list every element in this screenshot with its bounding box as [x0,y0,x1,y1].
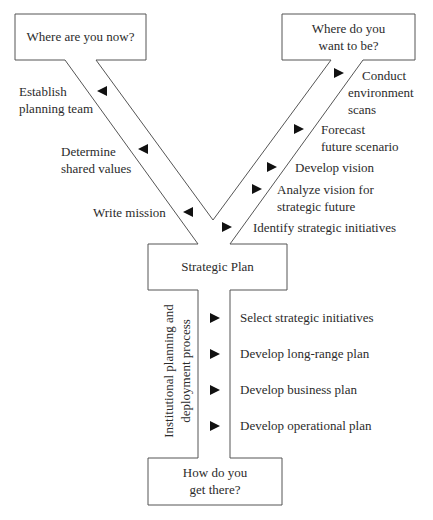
step-label: Develop vision [295,160,374,175]
step-label-line: planning team [19,100,93,117]
right-step-forecast-future-scenario: Forecast future scenario [321,121,399,155]
step-label: Identify strategic initiatives [253,220,396,235]
right-arrow-icon [252,184,262,194]
right-step-conduct-environment-scans-cont: environment scans [348,84,414,118]
right-arrow-icon [210,313,220,323]
step-label-line: Forecast [321,121,399,138]
stem-side-label: Institutional planning and deployment pr… [160,291,196,451]
box-label-line: Where do you [282,20,415,37]
right-arrow-icon [267,162,277,172]
left-step-determine-shared-values: Determine shared values [61,143,131,177]
left-arrow-icon [97,86,107,96]
box-where-do-you-want-to-be: Where do you want to be? [282,20,415,54]
right-step-conduct-environment-scans: Conduct [361,67,406,84]
right-arrow-icon [222,222,232,232]
left-step-write-mission: Write mission [93,204,166,221]
right-arrow-icon [334,68,344,78]
step-label: Write mission [93,205,166,220]
right-step-analyze-vision: Analyze vision for strategic future [277,181,374,215]
box-label-line: How do you [148,464,282,481]
box-strategic-plan-label: Strategic Plan [181,259,254,274]
step-label: Select strategic initiatives [240,310,374,325]
stem-step-develop-business-plan: Develop business plan [240,381,357,398]
step-label-line: Establish [19,83,93,100]
stem-step-develop-long-range-plan: Develop long-range plan [240,345,369,362]
step-label: Develop business plan [240,382,357,397]
step-label-line: Determine [61,143,131,160]
step-label-line: Analyze vision for [277,181,374,198]
box-label-line: want to be? [282,37,415,54]
step-label-line: future scenario [321,138,399,155]
box-where-are-you-now-label: Where are you now? [27,29,135,44]
stem-side-label-line: Institutional planning and [160,291,177,451]
left-step-establish-planning-team: Establish planning team [19,83,93,117]
step-label-line: scans [348,101,414,118]
step-label-line: shared values [61,160,131,177]
box-strategic-plan: Strategic Plan [148,258,287,275]
right-arrow-icon [210,421,220,431]
box-how-do-you-get-there: How do you get there? [148,464,282,498]
left-channel-inner-line [96,60,213,220]
box-label-line: get there? [148,481,282,498]
step-label: Develop operational plan [240,418,371,433]
step-label-line: Conduct [361,67,406,84]
right-arrow-icon [210,349,220,359]
stem-side-label-line: deployment process [177,291,194,451]
step-label: Develop long-range plan [240,346,369,361]
left-arrow-icon [183,207,193,217]
box-where-are-you-now: Where are you now? [15,28,146,45]
left-arrow-icon [138,144,148,154]
right-step-identify-strategic-initiatives: Identify strategic initiatives [253,219,396,236]
right-arrow-icon [294,124,304,134]
stem-step-select-strategic-initiatives: Select strategic initiatives [240,309,374,326]
step-label-line: strategic future [277,198,374,215]
right-arrow-icon [210,385,220,395]
stem-step-develop-operational-plan: Develop operational plan [240,417,371,434]
right-step-develop-vision: Develop vision [295,159,374,176]
step-label-line: environment [348,84,414,101]
